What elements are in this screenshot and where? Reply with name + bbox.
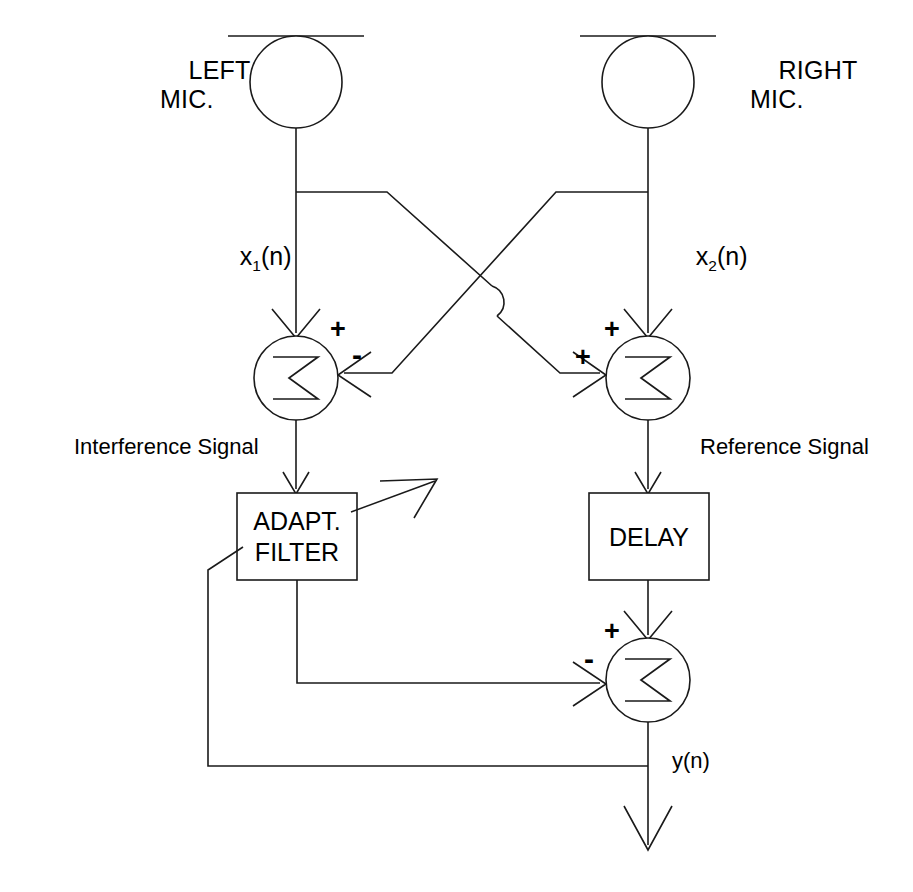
right-summing-junction-group	[606, 336, 690, 420]
right-sum-circle	[606, 336, 690, 420]
output-y-label: y(n)	[672, 748, 710, 774]
x1-signal-label: x1(n)	[212, 212, 291, 304]
reference-signal-label: Reference Signal	[700, 434, 869, 460]
wire-x1-branch-upper	[296, 192, 492, 286]
output-summing-junction-group	[606, 638, 690, 722]
wire-filter-out-to-output-sum	[297, 580, 600, 683]
right-microphone-group	[580, 36, 716, 128]
sign-output-sum-top: +	[604, 618, 620, 645]
sign-left-sum-top: +	[330, 316, 346, 343]
right-microphone-circle	[602, 36, 694, 128]
right-mic-label: RIGHT MIC.	[750, 26, 857, 144]
x2-signal-label: x2(n)	[668, 212, 747, 304]
left-microphone-circle	[250, 36, 342, 128]
left-summing-junction-group	[254, 336, 338, 420]
adaptation-arrow-group	[351, 479, 437, 518]
output-sum-circle	[606, 638, 690, 722]
wire-x2-branch-to-left-sum	[344, 192, 648, 373]
wire-crossover-hop-arc	[492, 286, 504, 316]
sign-right-sum-left: +	[575, 344, 591, 371]
sign-right-sum-top: +	[604, 316, 620, 343]
sign-output-sum-left: -	[584, 644, 594, 674]
block-diagram-canvas: LEFT MIC. RIGHT MIC. x1(n) x2(n) Interfe…	[0, 0, 913, 892]
x1-subscript: 1	[252, 256, 261, 273]
left-sum-circle	[254, 336, 338, 420]
left-mic-label: LEFT MIC.	[160, 26, 251, 144]
x2-subscript: 2	[708, 256, 717, 273]
interference-signal-label: Interference Signal	[74, 434, 259, 460]
sign-left-sum-right: -	[352, 340, 362, 370]
adaptive-filter-label: ADAPT. FILTER	[237, 506, 357, 567]
delay-label: DELAY	[589, 522, 709, 553]
adaptation-arrow-shaft	[351, 481, 435, 512]
